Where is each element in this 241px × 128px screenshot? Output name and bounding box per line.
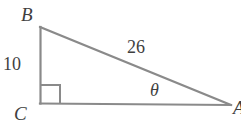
side-length-label-bc: 10 — [3, 55, 21, 73]
vertex-label-c: C — [14, 104, 27, 123]
triangle-drawing — [0, 0, 241, 128]
triangle-figure: B C A 10 26 θ — [0, 0, 241, 128]
right-angle-marker-icon — [41, 85, 60, 104]
triangle-side-ca — [40, 104, 231, 106]
vertex-label-a: A — [233, 98, 241, 117]
angle-label-theta: θ — [150, 81, 159, 99]
vertex-label-b: B — [21, 5, 33, 24]
side-length-label-ab: 26 — [127, 38, 145, 56]
